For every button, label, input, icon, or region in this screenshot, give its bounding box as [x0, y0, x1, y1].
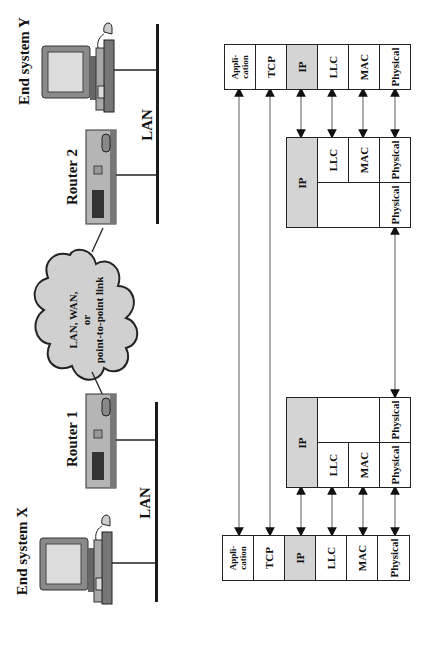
layer-ip: IP	[286, 44, 318, 90]
empty-cell	[317, 182, 380, 228]
layer-ip: IP	[286, 397, 318, 488]
layer-mac: MAC	[348, 44, 380, 90]
end-system-y-label: End system Y	[16, 16, 34, 106]
router-1-icon	[86, 394, 116, 488]
layer-llc: LLC	[317, 137, 349, 183]
end-system-x-label: End system X	[14, 506, 32, 596]
router-2-icon	[86, 130, 116, 224]
layer-ip: IP	[284, 535, 316, 581]
lan-bottom-bar	[155, 402, 158, 602]
layer-tcp: TCP	[255, 44, 287, 90]
layer-physical: Physical	[379, 442, 411, 488]
layer-mac: MAC	[346, 535, 378, 581]
layer-application: Appli- cation	[222, 535, 254, 581]
layer-mac: MAC	[348, 137, 380, 183]
empty-cell	[317, 397, 380, 443]
router-1-label: Router 1	[64, 404, 82, 474]
layer-physical: Physical	[379, 44, 411, 90]
layer-physical: Physical	[379, 137, 411, 183]
layer-physical: Physical	[379, 397, 411, 443]
layer-llc: LLC	[317, 44, 349, 90]
layer-tcp: TCP	[253, 535, 285, 581]
cloud-label: LAN, WAN, or point-to-point link	[67, 265, 107, 375]
computer-x-icon	[40, 515, 112, 604]
layer-llc: LLC	[317, 442, 349, 488]
layer-mac: MAC	[348, 442, 380, 488]
layer-application: Appli- cation	[224, 44, 256, 90]
layer-ip: IP	[286, 137, 318, 228]
layer-llc: LLC	[315, 535, 347, 581]
lan-bottom-label: LAN	[137, 483, 155, 523]
computer-y-icon	[42, 23, 114, 112]
layer-physical: Physical	[377, 535, 410, 581]
lan-top-label: LAN	[139, 105, 157, 145]
layer-physical: Physical	[379, 182, 411, 228]
router-2-label: Router 2	[64, 142, 82, 212]
